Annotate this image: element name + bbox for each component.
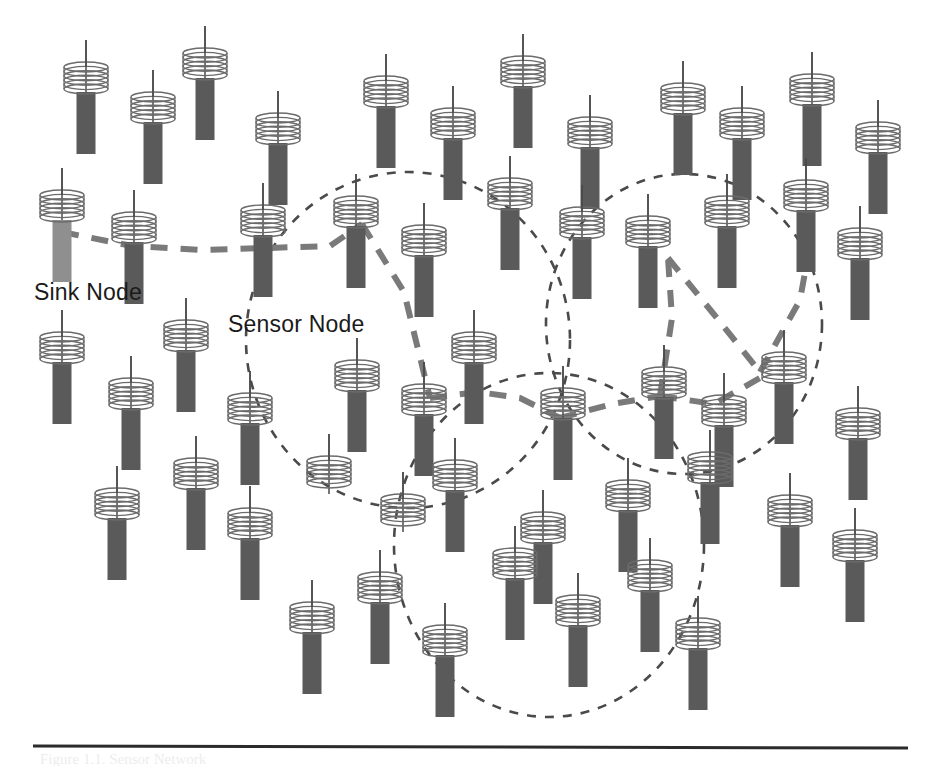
node-body (144, 122, 163, 184)
node-body (506, 578, 525, 640)
node-body (53, 220, 72, 282)
node-body (415, 414, 434, 476)
node-body (674, 113, 693, 175)
node-body (446, 490, 465, 552)
node-body (569, 625, 588, 687)
node-body (701, 482, 720, 544)
node-body (501, 208, 520, 270)
node-body (415, 255, 434, 317)
node-body (869, 152, 888, 214)
node-body (53, 362, 72, 424)
node-body (689, 648, 708, 710)
node-body (377, 106, 396, 168)
node-body (348, 390, 367, 452)
node-body (849, 438, 868, 500)
node-body (781, 525, 800, 587)
node-body (733, 138, 752, 200)
node-body (303, 632, 322, 694)
node-body (581, 147, 600, 209)
node-body (639, 246, 658, 308)
node-body (797, 210, 816, 272)
node-body (775, 382, 794, 444)
node-body (254, 235, 273, 297)
figure-caption: Figure 1.1. Sensor Network (40, 751, 207, 766)
node-body (77, 92, 96, 154)
figure-rule-line (33, 746, 908, 748)
node-body (177, 350, 196, 412)
node-body (122, 408, 141, 470)
node-body (269, 143, 288, 205)
sensor-node-label: Sensor Node (228, 311, 364, 337)
node-body (444, 138, 463, 200)
node-body (554, 418, 573, 480)
sink-node-label: Sink Node (34, 279, 142, 305)
node-body (108, 518, 127, 580)
node-body (655, 397, 674, 459)
node-body (436, 655, 455, 717)
node-body (241, 538, 260, 600)
node-body (187, 488, 206, 550)
node-body (803, 104, 822, 166)
node-body (718, 226, 737, 288)
node-body (619, 510, 638, 572)
node-body (196, 78, 215, 140)
node-body (347, 226, 366, 288)
node-body (641, 590, 660, 652)
sensor-network-diagram: Sink Node Sensor Node Figure 1.1. Sensor… (0, 0, 928, 766)
node-body (573, 237, 592, 299)
node-body (241, 423, 260, 485)
node-body (851, 258, 870, 320)
node-body (846, 560, 865, 622)
node-body (514, 86, 533, 148)
figure-root: Sink Node Sensor Node Figure 1.1. Sensor… (0, 0, 928, 766)
node-body (465, 362, 484, 424)
node-body (371, 602, 390, 664)
